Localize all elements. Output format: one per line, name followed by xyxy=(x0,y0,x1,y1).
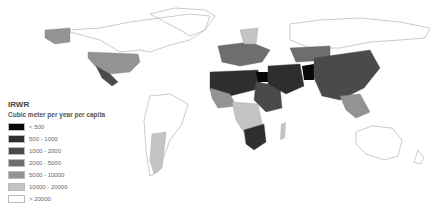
map-legend: IRWR Cubic meter per year per capita < 5… xyxy=(8,100,158,205)
russia-outline xyxy=(290,18,430,48)
legend-item: 1000 - 2000 xyxy=(8,145,158,157)
region-usa xyxy=(88,52,140,74)
legend-item: 5000 - 10000 xyxy=(8,169,158,181)
legend-item: < 500 xyxy=(8,121,158,133)
legend-swatch xyxy=(8,135,25,143)
legend-swatch xyxy=(8,147,25,155)
new-zealand-outline xyxy=(414,150,424,164)
legend-item: 2000 - 5000 xyxy=(8,157,158,169)
legend-title: IRWR xyxy=(8,100,158,110)
legend-label: 10000 - 20000 xyxy=(29,184,68,190)
legend-label: 2000 - 5000 xyxy=(29,160,61,166)
region-scandinavia xyxy=(240,28,258,44)
legend-label: 1000 - 2000 xyxy=(29,148,61,154)
legend-item: 500 - 1000 xyxy=(8,133,158,145)
legend-swatch xyxy=(8,183,25,191)
region-europe xyxy=(218,42,270,66)
legend-label: 500 - 1000 xyxy=(29,136,58,142)
australia-outline xyxy=(356,126,402,160)
region-southeast-asia xyxy=(340,94,370,118)
region-madagascar xyxy=(280,122,286,140)
canada-outline xyxy=(70,14,210,52)
legend-label: < 500 xyxy=(29,124,44,130)
greenland-outline xyxy=(150,8,215,36)
legend-swatch xyxy=(8,123,25,131)
region-pakistan xyxy=(302,64,314,80)
legend-label: > 20000 xyxy=(29,196,51,202)
legend-swatch xyxy=(8,159,25,167)
legend-swatch xyxy=(8,171,25,179)
legend-label: 5000 - 10000 xyxy=(29,172,64,178)
region-egypt xyxy=(256,72,268,82)
legend-subtitle: Cubic meter per year per capita xyxy=(8,110,158,119)
legend-item: 10000 - 20000 xyxy=(8,181,158,193)
legend-item: > 20000 xyxy=(8,193,158,205)
region-china-india xyxy=(314,50,380,100)
legend-swatch xyxy=(8,195,25,203)
region-alaska xyxy=(45,28,70,44)
